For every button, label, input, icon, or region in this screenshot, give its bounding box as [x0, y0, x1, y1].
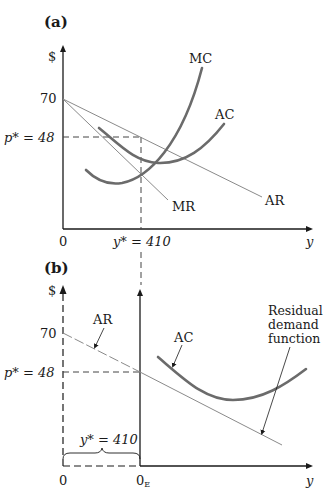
panel-a-x-label: y	[305, 234, 314, 249]
panel-a-price-label: p* = 48	[4, 130, 55, 145]
panel-b-residual-demand-curve	[140, 372, 282, 445]
panel-a-mr-label: MR	[172, 199, 196, 214]
panel-b-dollar-label: $	[48, 283, 56, 298]
panel-a-mc-curve	[86, 68, 202, 184]
panel-b-x-label: y	[305, 473, 314, 488]
panel-a-origin: 0	[59, 234, 67, 249]
panel-b-price-label: p* = 48	[4, 365, 55, 380]
panel-b-origin: 0	[59, 473, 67, 488]
panel-b-ar-curve	[63, 333, 140, 372]
panel-b-residual-pointer	[262, 347, 290, 433]
panel-b-dashed-y-arrow-icon	[60, 285, 67, 294]
panel-b-ac-label: AC	[173, 330, 193, 345]
panel-b-ar-label: AR	[92, 312, 113, 327]
panel-a-tick-70: 70	[40, 91, 57, 106]
panel-a-quantity-label: y* = 410	[112, 234, 171, 249]
panel-b-residual-label-line1: Residual	[268, 303, 323, 318]
panel-b-label: (b)	[44, 259, 69, 277]
panel-b-ar-pointer	[95, 328, 104, 347]
panel-b-quantity-brace	[63, 448, 140, 459]
limit-pricing-diagram: (a) $ y 0 70 p* = 48 y* = 410 MC AC MR A…	[0, 0, 331, 494]
panel-b-ac-curve	[158, 357, 306, 400]
panel-b-ac-pointer	[173, 345, 182, 366]
panel-b-quantity-label: y* = 410	[79, 432, 138, 447]
panel-b: (b) $ y 0 0E 70 p* = 48 AR AC Residual d…	[4, 259, 323, 489]
panel-a-ac-label: AC	[214, 107, 234, 122]
panel-a-ar-label: AR	[264, 193, 285, 208]
panel-b-entrant-origin: 0E	[136, 473, 150, 489]
panel-a-dollar-label: $	[48, 49, 56, 64]
panel-a: (a) $ y 0 70 p* = 48 y* = 410 MC AC MR A…	[4, 13, 314, 249]
panel-b-tick-70: 70	[40, 326, 57, 341]
panel-a-mc-label: MC	[189, 51, 212, 66]
panel-b-residual-label-line3: function	[268, 331, 320, 346]
panel-b-residual-label-line2: demand	[268, 317, 319, 332]
panel-a-label: (a)	[44, 13, 68, 31]
